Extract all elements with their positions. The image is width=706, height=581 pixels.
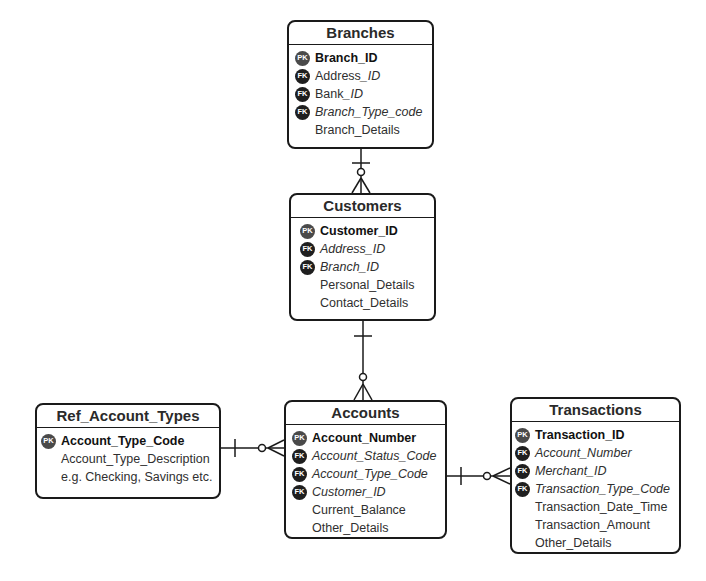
field-name: Transaction_ID [535,426,625,444]
field-name: Transaction_Date_Time [535,498,667,516]
field-note: e.g. Checking, Savings etc. [61,468,212,486]
field-name: Address_ID [320,240,385,258]
field-row: FK Merchant_ID [515,462,679,480]
primary-key-icon: PK [292,431,307,446]
foreign-key-icon: FK [300,260,315,275]
field-name: Account_Type_Code [61,432,184,450]
foreign-key-icon: FK [295,87,310,102]
primary-key-icon: PK [300,224,315,239]
field-row: FK Address_ID [295,67,432,85]
rel-accounts-transactions [446,467,510,485]
foreign-key-icon: FK [292,449,307,464]
foreign-key-icon: FK [515,482,530,497]
field-row: Personal_Details [300,276,434,294]
field-name: Bank [315,85,344,103]
entity-branches[interactable]: Branches PK Branch_ID FK Address_ID FK B… [287,20,434,149]
field-name: Transaction_Amount [535,516,650,534]
field-row: FK Transaction_Type_Code [515,480,679,498]
rel-reftypes-accounts [220,439,284,457]
field-row: Other_Details [292,519,445,537]
field-row: FK Account_Number [515,444,679,462]
field-row: FK Bank_ID [295,85,432,103]
field-name: Account_Number [535,444,632,462]
field-row: Contact_Details [300,294,434,312]
field-name: Current_Balance [312,501,406,519]
rel-customers-accounts [354,320,372,400]
foreign-key-icon: FK [515,464,530,479]
primary-key-icon: PK [295,51,310,66]
field-row: PK Transaction_ID [515,426,679,444]
field-row: FK Account_Status_Code [292,447,445,465]
field-row: FK Branch_Type_code [295,103,432,121]
field-name-suffix: _ID [344,85,363,103]
entity-title: Transactions [512,399,679,422]
entity-title: Ref_Account_Types [37,405,219,428]
foreign-key-icon: FK [295,69,310,84]
entity-title: Branches [289,22,432,45]
field-name: Account_Type_Code [312,465,428,483]
field-row: FK Customer_ID [292,483,445,501]
field-row: e.g. Checking, Savings etc. [41,468,219,486]
field-name: Personal_Details [320,276,415,294]
entity-title: Customers [291,195,434,218]
field-name: Address [315,67,361,85]
entity-customers[interactable]: Customers PK Customer_ID FK Address_ID F… [289,193,436,321]
field-row: FK Account_Type_Code [292,465,445,483]
field-name: Customer_ID [320,222,398,240]
field-row: PK Customer_ID [300,222,434,240]
field-name: Branch_ID [315,49,378,67]
field-row: Other_Details [515,534,679,552]
primary-key-icon: PK [515,428,530,443]
field-row: FK Branch_ID [300,258,434,276]
field-name: Other_Details [312,519,388,537]
rel-branches-customers [352,148,370,193]
field-name: Account_Number [312,429,416,447]
foreign-key-icon: FK [292,485,307,500]
field-row: Transaction_Amount [515,516,679,534]
field-name: Account_Status_Code [312,447,436,465]
field-row: PK Branch_ID [295,49,432,67]
field-row: PK Account_Number [292,429,445,447]
foreign-key-icon: FK [300,242,315,257]
field-name: Other_Details [535,534,611,552]
field-row: Current_Balance [292,501,445,519]
foreign-key-icon: FK [292,467,307,482]
field-row: PK Account_Type_Code [41,432,219,450]
entity-accounts[interactable]: Accounts PK Account_Number FK Account_St… [284,400,447,539]
field-name: Contact_Details [320,294,408,312]
field-name: Branch_ID [320,258,379,276]
field-name: Branch_Type_code [315,103,422,121]
field-row: Transaction_Date_Time [515,498,679,516]
entity-title: Accounts [286,402,445,425]
field-name: Customer_ID [312,483,386,501]
field-name: Transaction_Type_Code [535,480,670,498]
foreign-key-icon: FK [295,105,310,120]
field-row: FK Address_ID [300,240,434,258]
primary-key-icon: PK [41,434,56,449]
field-name-suffix: _ID [361,67,380,85]
field-row: Account_Type_Description [41,450,219,468]
field-name: Branch_Details [315,121,400,139]
entity-ref-account-types[interactable]: Ref_Account_Types PK Account_Type_Code A… [35,403,221,499]
field-name: Account_Type_Description [61,450,210,468]
foreign-key-icon: FK [515,446,530,461]
field-name: Merchant_ID [535,462,607,480]
field-row: Branch_Details [295,121,432,139]
entity-transactions[interactable]: Transactions PK Transaction_ID FK Accoun… [510,397,681,554]
